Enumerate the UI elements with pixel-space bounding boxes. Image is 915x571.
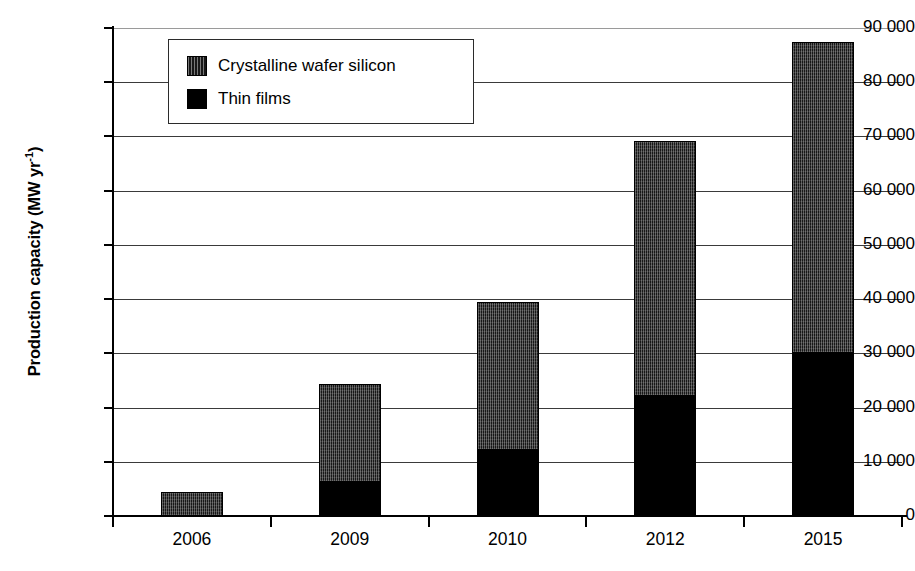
bar-segment-thin-films-2012[interactable] bbox=[634, 396, 696, 516]
x-tick-label-2012: 2012 bbox=[605, 529, 725, 550]
bar-segment-crystalline-2010[interactable] bbox=[477, 302, 539, 450]
bar-segment-crystalline-2012[interactable] bbox=[634, 141, 696, 396]
x-tick-mark-3 bbox=[585, 516, 587, 527]
bar-segment-crystalline-2009[interactable] bbox=[319, 384, 381, 482]
legend-label-thin-films: Thin films bbox=[218, 89, 291, 109]
x-tick-mark-2 bbox=[428, 516, 430, 527]
legend: Crystalline wafer silicon Thin films bbox=[168, 39, 474, 124]
bar-segment-thin-films-2015[interactable] bbox=[792, 353, 854, 516]
x-tick-label-2015: 2015 bbox=[763, 529, 883, 550]
x-tick-mark-1 bbox=[270, 516, 272, 527]
x-tick-mark-5 bbox=[901, 516, 903, 527]
stacked-bar-chart: Production capacity (MW yr-1) 010 00020 … bbox=[0, 0, 915, 571]
bar-group-2012[interactable] bbox=[634, 141, 696, 516]
bar-group-2006[interactable] bbox=[161, 492, 223, 516]
x-tick-mark-4 bbox=[743, 516, 745, 527]
legend-swatch-thin-films-icon bbox=[187, 89, 207, 109]
x-tick-label-2009: 2009 bbox=[290, 529, 410, 550]
legend-item-crystalline-wafer-silicon: Crystalline wafer silicon bbox=[187, 49, 473, 82]
x-tick-label-2010: 2010 bbox=[448, 529, 568, 550]
x-tick-label-2006: 2006 bbox=[132, 529, 252, 550]
legend-label-crystalline: Crystalline wafer silicon bbox=[218, 56, 396, 76]
legend-swatch-crystalline-icon bbox=[187, 56, 207, 76]
bar-segment-thin-films-2010[interactable] bbox=[477, 450, 539, 516]
bar-segment-thin-films-2009[interactable] bbox=[319, 482, 381, 516]
x-tick-mark-0 bbox=[112, 516, 114, 527]
bar-segment-crystalline-2006[interactable] bbox=[161, 492, 223, 516]
bar-group-2010[interactable] bbox=[477, 302, 539, 516]
bar-group-2009[interactable] bbox=[319, 384, 381, 516]
legend-item-thin-films: Thin films bbox=[187, 82, 473, 115]
bar-segment-crystalline-2015[interactable] bbox=[792, 42, 854, 354]
bar-group-2015[interactable] bbox=[792, 42, 854, 516]
